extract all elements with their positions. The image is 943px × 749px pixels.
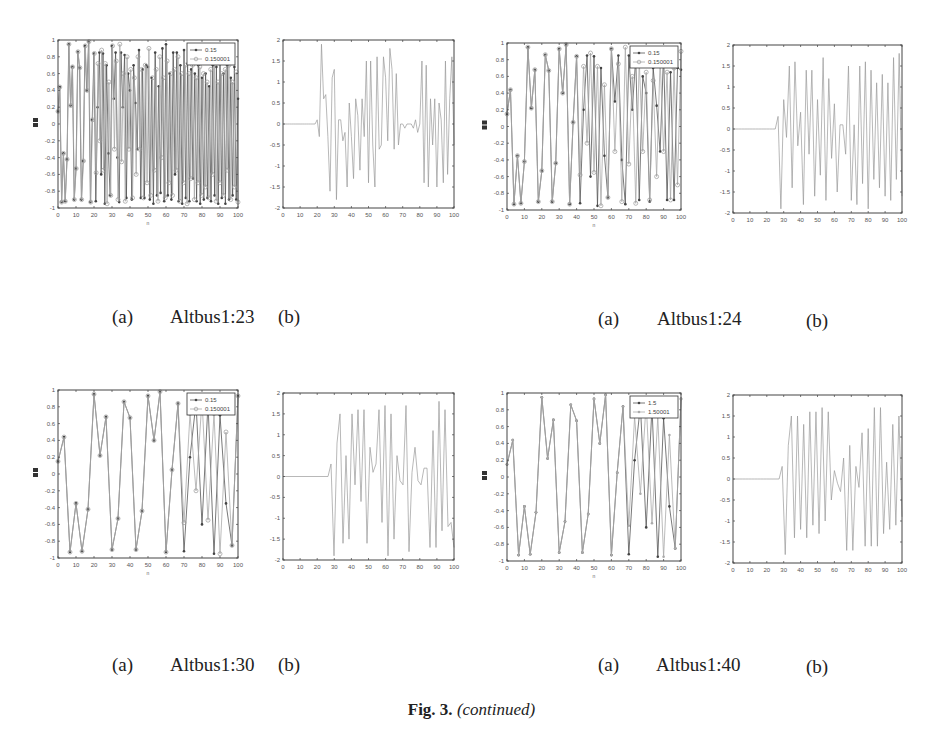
svg-text:1.5: 1.5 [722,63,731,69]
svg-text:n: n [593,222,596,228]
svg-text:-1.5: -1.5 [270,536,281,542]
caption-30-a: (a) [112,654,133,676]
svg-text:1: 1 [501,40,505,46]
svg-text:0: 0 [281,212,285,218]
svg-text:90: 90 [660,565,667,571]
svg-text:0.15: 0.15 [648,50,660,56]
svg-text:-0.2: -0.2 [45,138,56,144]
svg-text:1.5: 1.5 [722,413,731,419]
svg-text:0.2: 0.2 [496,457,505,463]
svg-text:100: 100 [233,212,244,218]
caption-24-a: (a) [598,308,619,330]
svg-text:20: 20 [91,562,98,568]
svg-text:-1: -1 [725,168,731,174]
svg-text:70: 70 [181,212,188,218]
svg-text:1: 1 [277,79,281,85]
chart-altbus1-23-a: 0102030405060708090100-1-0.8-0.6-0.4-0.2… [28,36,240,240]
svg-text:0: 0 [731,567,735,573]
svg-text:0.15: 0.15 [205,47,217,53]
svg-text:40: 40 [127,562,134,568]
svg-text:10: 10 [73,212,80,218]
svg-text:1.5: 1.5 [648,400,657,406]
series-line [733,53,902,208]
svg-text:50: 50 [365,212,372,218]
series-line [58,392,238,554]
svg-text:50: 50 [814,217,821,223]
svg-text:20: 20 [314,212,321,218]
svg-text:80: 80 [199,562,206,568]
svg-text:10: 10 [73,562,80,568]
svg-text:40: 40 [797,217,804,223]
svg-text:1: 1 [52,387,56,393]
svg-text:0: 0 [52,471,56,477]
svg-text:0: 0 [52,121,56,127]
svg-text:50: 50 [814,567,821,573]
svg-text:-0.4: -0.4 [45,505,56,511]
svg-text:-0.5: -0.5 [270,142,281,148]
svg-text:1: 1 [727,434,731,440]
svg-text:-1: -1 [275,515,281,521]
svg-text:-0.2: -0.2 [494,140,505,146]
svg-text:0.6: 0.6 [47,71,56,77]
svg-text:0.5: 0.5 [272,453,281,459]
svg-text:-1.5: -1.5 [720,189,731,195]
svg-text:0.5: 0.5 [722,105,731,111]
svg-text:30: 30 [556,565,563,571]
svg-text:60: 60 [831,217,838,223]
svg-text:-2: -2 [725,210,731,216]
caption-23-a: (a) [112,306,133,328]
svg-text:80: 80 [416,212,423,218]
svg-text:-0.6: -0.6 [494,174,505,180]
svg-text:0.4: 0.4 [496,440,505,446]
svg-text:70: 70 [848,217,855,223]
svg-text:60: 60 [382,564,389,570]
svg-text:0: 0 [56,562,60,568]
svg-text:0.8: 0.8 [47,54,56,60]
series-line [283,44,454,199]
svg-text:10: 10 [521,214,528,220]
svg-text:10: 10 [297,212,304,218]
svg-text:100: 100 [676,565,687,571]
svg-text:100: 100 [676,214,687,220]
svg-text:60: 60 [163,562,170,568]
svg-text:0.150001: 0.150001 [205,406,231,412]
figure-caption: Fig. 3. (continued) [0,700,943,720]
svg-text:30: 30 [780,567,787,573]
svg-text:-0.4: -0.4 [494,157,505,163]
figure-label: Fig. 3. [408,700,453,719]
svg-text:1.50001: 1.50001 [648,409,670,415]
svg-text:0.5: 0.5 [272,100,281,106]
svg-text:50: 50 [591,565,598,571]
svg-text:20: 20 [538,214,545,220]
svg-text:30: 30 [109,562,116,568]
svg-text:40: 40 [797,567,804,573]
svg-text:80: 80 [643,565,650,571]
svg-text:1.5: 1.5 [272,411,281,417]
svg-text:60: 60 [163,212,170,218]
svg-text:2: 2 [727,392,731,398]
svg-text:80: 80 [865,567,872,573]
svg-text:90: 90 [217,562,224,568]
caption-24-b: (b) [806,310,828,332]
svg-text:0.150001: 0.150001 [205,56,231,62]
svg-text:2: 2 [277,390,281,396]
svg-text:0: 0 [727,476,731,482]
svg-text:30: 30 [331,212,338,218]
caption-23-b: (b) [278,306,300,328]
svg-text:0.150001: 0.150001 [648,59,674,65]
svg-text:-1.5: -1.5 [720,539,731,545]
svg-text:10: 10 [297,564,304,570]
svg-text:90: 90 [882,217,889,223]
svg-text:60: 60 [608,565,615,571]
svg-text:50: 50 [365,564,372,570]
svg-text:0: 0 [505,214,509,220]
svg-text:100: 100 [233,562,244,568]
svg-text:0.6: 0.6 [47,421,56,427]
series-line [507,395,681,557]
chart-altbus1-23-b: 0102030405060708090100-2-1.5-1-0.500.511… [263,36,456,240]
svg-text:0: 0 [727,126,731,132]
svg-text:n: n [147,570,150,576]
svg-text:70: 70 [848,567,855,573]
svg-text:60: 60 [831,567,838,573]
svg-text:2: 2 [277,37,281,43]
